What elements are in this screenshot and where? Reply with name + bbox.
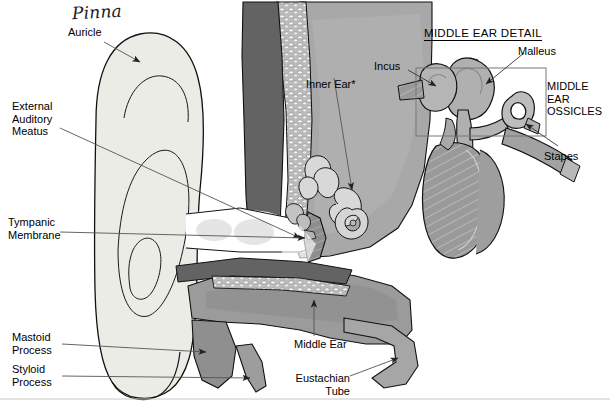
label-auricle: Auricle	[68, 26, 102, 39]
handwritten-pinna-note: Pinna	[72, 1, 123, 24]
membrane-rim	[476, 150, 504, 254]
label-styloid-process: Styloid Process	[12, 363, 52, 388]
label-malleus: Malleus	[518, 45, 556, 58]
label-external-auditory-meatus: External Auditory Meatus	[12, 100, 52, 138]
semicircular-canal-lateral	[299, 177, 318, 199]
label-incus: Incus	[374, 60, 400, 73]
detail-panel-title-text: MIDDLE EAR DETAIL	[424, 27, 542, 41]
malleus-lateral-process	[470, 118, 508, 140]
label-eustachian-tube: Eustachian Tube	[238, 372, 350, 397]
canal-shadow-a	[196, 219, 232, 241]
ear-anatomy-diagram: Pinna Auricle External Auditory Meatus T…	[0, 0, 610, 419]
label-tympanic-membrane: Tympanic Membrane	[8, 216, 61, 241]
label-middle-ear: Middle Ear	[294, 338, 347, 351]
label-mastoid-process: Mastoid Process	[12, 331, 52, 356]
incus-body	[418, 64, 456, 112]
label-inner-ear: Inner Ear*	[306, 78, 356, 91]
label-middle-ear-ossicles: MIDDLE EAR OSSICLES	[547, 80, 602, 118]
label-stapes: Stapes	[544, 150, 578, 163]
detail-panel-title: MIDDLE EAR DETAIL	[424, 27, 542, 39]
anatomy-artwork	[0, 0, 610, 419]
cochlea-center	[350, 220, 356, 226]
